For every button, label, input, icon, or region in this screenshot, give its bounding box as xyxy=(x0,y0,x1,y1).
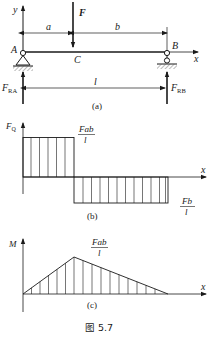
diagram-a-label: (a) xyxy=(92,101,102,111)
point-b-label: B xyxy=(172,40,178,51)
svg-text:l: l xyxy=(185,207,188,217)
moment-hatch xyxy=(32,257,156,294)
beam-diagram: y F a b x A B C xyxy=(1,2,199,111)
reaction-b-label: FRB xyxy=(170,82,186,94)
shear-negative-hatch xyxy=(83,177,166,203)
point-c-label: C xyxy=(74,54,81,65)
dim-b-label: b xyxy=(115,21,120,32)
shear-bottom-value: Fb l xyxy=(180,196,195,217)
figure-caption: 图 5.7 xyxy=(85,322,113,333)
shear-top-value: Fab l xyxy=(78,124,95,145)
shear-y-axis-label: FQ xyxy=(5,121,17,132)
moment-diagram: M x Fab l (c) xyxy=(8,237,206,312)
shear-positive-region xyxy=(23,138,74,178)
roller-support-icon xyxy=(157,50,177,69)
dim-l-label: l xyxy=(94,76,97,87)
point-a-label: A xyxy=(10,44,18,55)
diagram-b-label: (b) xyxy=(87,211,98,221)
dim-a-label: a xyxy=(46,21,51,32)
svg-text:Fb: Fb xyxy=(181,196,192,206)
svg-text:l: l xyxy=(98,248,101,258)
moment-peak-value: Fab l xyxy=(91,237,108,258)
beam-figure: y F a b x A B C xyxy=(0,0,213,340)
force-label: F xyxy=(78,7,86,18)
x-axis-label: x xyxy=(193,53,199,64)
svg-text:Fab: Fab xyxy=(78,124,94,134)
shear-negative-region xyxy=(74,177,168,203)
svg-text:l: l xyxy=(84,135,87,145)
reaction-a-label: FRA xyxy=(1,82,17,94)
moment-x-axis-label: x xyxy=(200,281,206,292)
svg-text:Fab: Fab xyxy=(91,237,107,247)
shear-diagram: FQ x Fab xyxy=(5,121,206,221)
diagram-c-label: (c) xyxy=(87,300,97,310)
shear-positive-hatch xyxy=(31,138,65,178)
moment-y-axis-label: M xyxy=(8,239,17,249)
y-axis-label: y xyxy=(12,4,18,15)
shear-x-axis-label: x xyxy=(200,164,206,175)
